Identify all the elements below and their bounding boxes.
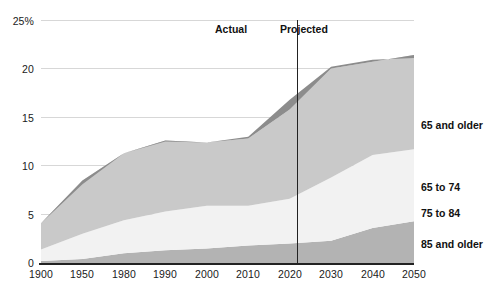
xtick-2030: 2030 xyxy=(309,268,353,280)
ytick-25: 25% xyxy=(0,15,34,27)
xtick-2000: 2000 xyxy=(185,268,229,280)
legend-label-85-and-older: 85 and older xyxy=(421,238,483,250)
legend-label-65-to-74: 65 to 74 xyxy=(421,181,460,193)
ytick-15: 15 xyxy=(0,112,34,124)
area-bands xyxy=(41,55,414,263)
chart-canvas xyxy=(0,0,502,303)
xtick-2020: 2020 xyxy=(268,268,312,280)
annotation-actual: Actual xyxy=(215,23,247,35)
stacked-area-chart: 25% 20 15 10 5 0 1900 1950 1980 1990 200… xyxy=(0,0,502,303)
xtick-1950: 1950 xyxy=(60,268,104,280)
legend-label-65-and-older: 65 and older xyxy=(421,119,483,131)
xtick-2040: 2040 xyxy=(351,268,395,280)
xtick-2050: 2050 xyxy=(392,268,436,280)
xtick-1990: 1990 xyxy=(143,268,187,280)
xtick-1900: 1900 xyxy=(19,268,63,280)
xtick-2010: 2010 xyxy=(226,268,270,280)
ytick-10: 10 xyxy=(0,160,34,172)
annotation-projected: Projected xyxy=(280,23,328,35)
xtick-1980: 1980 xyxy=(102,268,146,280)
ytick-20: 20 xyxy=(0,63,34,75)
ytick-5: 5 xyxy=(0,209,34,221)
legend-label-75-to-84: 75 to 84 xyxy=(421,207,460,219)
